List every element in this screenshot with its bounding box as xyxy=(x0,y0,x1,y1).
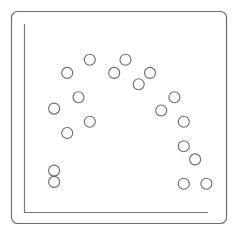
scatter-chart xyxy=(0,0,238,232)
chart-frame xyxy=(12,12,227,224)
